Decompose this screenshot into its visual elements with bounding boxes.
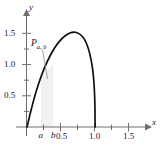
x-tick-label-0-5: 0.5 <box>56 132 67 141</box>
region-annotation-pab: Pa, b <box>31 39 47 50</box>
x-marker-label-a: a <box>39 131 44 140</box>
y-tick-label-1-5: 1.5 <box>4 29 15 38</box>
x-marker-label-b: b <box>51 131 56 140</box>
x-axis-label: x <box>152 118 156 127</box>
math-figure: y x 1.5 1.0 0.5 a b 0.5 1.0 1.5 Pa, b <box>0 0 161 160</box>
x-axis-arrow <box>145 124 152 131</box>
x-tick-label-1-5: 1.5 <box>123 132 134 141</box>
plot-canvas <box>0 0 161 160</box>
y-tick-label-0-5: 0.5 <box>4 91 15 100</box>
y-tick-label-1-0: 1.0 <box>4 60 15 69</box>
x-tick-label-1-0: 1.0 <box>89 132 100 141</box>
y-axis-label: y <box>29 3 33 12</box>
region-annotation-subscript: a, b <box>37 43 47 50</box>
